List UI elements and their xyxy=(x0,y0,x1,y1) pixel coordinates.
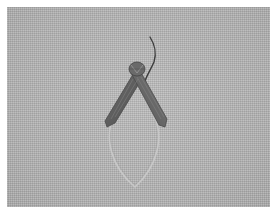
leaf-outline xyxy=(109,115,158,187)
photo: Grayscale photo of a small moth with win… xyxy=(7,7,270,207)
antenna xyxy=(145,37,155,81)
moth-illustration xyxy=(7,7,270,207)
